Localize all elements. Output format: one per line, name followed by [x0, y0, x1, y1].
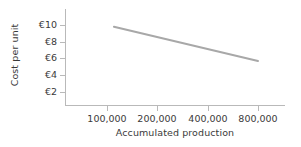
- x-tick-mark: [208, 106, 209, 111]
- x-tick-mark: [157, 106, 158, 111]
- y-tick-mark: [60, 75, 65, 76]
- experience-curve-chart: Cost per unit €10 €8 €6 €4 €2 100,000 20…: [0, 0, 301, 147]
- y-tick-label: €2: [0, 87, 57, 97]
- x-tick-label-wrap: 800,000: [228, 113, 288, 124]
- y-tick-label-wrap: €4: [0, 70, 57, 80]
- y-tick-label: €4: [0, 70, 57, 80]
- cost-per-unit-line: [114, 27, 258, 61]
- y-tick-label: €6: [0, 53, 57, 63]
- y-tick-mark: [60, 58, 65, 59]
- y-tick-label-wrap: €2: [0, 87, 57, 97]
- y-tick-mark: [60, 92, 65, 93]
- y-tick-label: €10: [0, 20, 57, 30]
- y-tick-label-wrap: €8: [0, 37, 57, 47]
- y-tick-label-wrap: €10: [0, 20, 57, 30]
- x-axis-line: [65, 105, 285, 106]
- y-tick-label: €8: [0, 37, 57, 47]
- y-tick-label-wrap: €6: [0, 53, 57, 63]
- y-tick-mark: [60, 25, 65, 26]
- x-tick-label: 800,000: [228, 113, 288, 124]
- y-axis-line: [65, 9, 66, 106]
- x-tick-mark: [258, 106, 259, 111]
- x-tick-mark: [107, 106, 108, 111]
- y-tick-mark: [60, 42, 65, 43]
- x-axis-title: Accumulated production: [65, 127, 285, 138]
